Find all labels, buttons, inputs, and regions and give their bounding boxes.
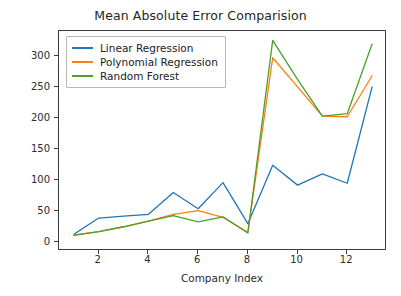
y-tick-label: 150: [0, 143, 50, 154]
x-axis-label: Company Index: [58, 272, 386, 284]
y-tick-label: 100: [0, 174, 50, 185]
x-tick-label: 2: [78, 254, 118, 265]
legend-item-1[interactable]: Linear Regression: [72, 41, 218, 55]
chart-figure: Mean Absolute Error Comparision Error Ma…: [0, 0, 401, 296]
x-tick-label: 12: [326, 254, 366, 265]
legend-color-swatch: [72, 47, 93, 49]
y-tick-label: 0: [0, 236, 50, 247]
series-line-1: [74, 87, 372, 234]
x-tick-label: 6: [177, 254, 217, 265]
y-tick-label: 50: [0, 205, 50, 216]
legend-label: Linear Regression: [100, 41, 193, 55]
y-tick-label: 300: [0, 49, 50, 60]
legend-label: Polynomial Regression: [100, 55, 218, 69]
chart-title: Mean Absolute Error Comparision: [0, 8, 401, 23]
legend-item-3[interactable]: Random Forest: [72, 69, 218, 83]
x-tick-mark: [297, 250, 298, 254]
x-tick-label: 4: [127, 254, 167, 265]
y-tick-label: 200: [0, 112, 50, 123]
legend-label: Random Forest: [100, 69, 179, 83]
legend-item-2[interactable]: Polynomial Regression: [72, 55, 218, 69]
x-tick-label: 10: [277, 254, 317, 265]
x-tick-label: 8: [227, 254, 267, 265]
legend-color-swatch: [72, 61, 93, 63]
x-tick-mark: [147, 250, 148, 254]
x-tick-mark: [197, 250, 198, 254]
x-tick-mark: [346, 250, 347, 254]
legend-color-swatch: [72, 75, 93, 77]
chart-legend: Linear RegressionPolynomial RegressionRa…: [66, 36, 226, 88]
x-tick-mark: [98, 250, 99, 254]
y-tick-label: 250: [0, 80, 50, 91]
x-tick-mark: [247, 250, 248, 254]
